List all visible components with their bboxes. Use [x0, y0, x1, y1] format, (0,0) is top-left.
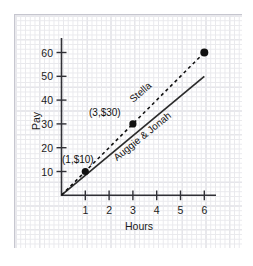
data-point-3-30 [129, 120, 136, 127]
annotation-point-1-10: (1,$10) [62, 155, 94, 165]
y-axis-title: Pay [31, 112, 42, 130]
data-point-1-10 [82, 168, 89, 175]
y-tick-label-10: 10 [34, 167, 53, 178]
x-tick-label-6: 6 [196, 205, 212, 216]
chart-container: 60 50 40 30 20 10 1 2 3 4 5 6 Pay Hours … [0, 0, 253, 266]
x-tick-label-1: 1 [77, 205, 93, 216]
x-tick-label-3: 3 [125, 205, 141, 216]
x-axis-title: Hours [125, 221, 153, 232]
y-tick-label-50: 50 [34, 71, 53, 82]
y-tick-label-20: 20 [34, 143, 53, 154]
x-tick-label-5: 5 [173, 205, 189, 216]
x-tick-label-4: 4 [149, 205, 165, 216]
y-tick-label-60: 60 [34, 48, 53, 59]
x-tick-label-2: 2 [101, 205, 117, 216]
annotation-point-3-30: (3,$30) [89, 108, 121, 118]
data-point-6-60 [200, 49, 208, 57]
y-tick-label-40: 40 [34, 95, 53, 106]
